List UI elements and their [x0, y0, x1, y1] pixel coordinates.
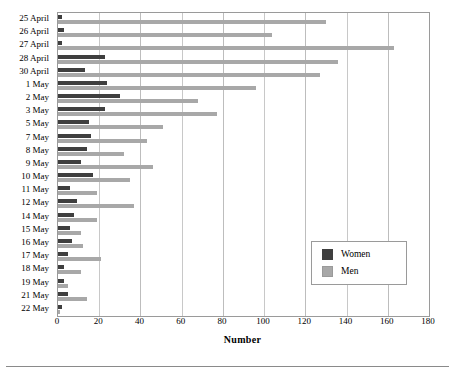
bar-men [58, 270, 81, 274]
chart-legend: Women Men [311, 241, 407, 285]
x-axis-tick-label: 160 [380, 316, 394, 326]
bar-group [58, 197, 429, 210]
legend-label-men: Men [341, 267, 358, 277]
x-axis-tick-label: 60 [176, 316, 185, 326]
x-axis-title: Number [57, 334, 428, 345]
bar-men [58, 73, 320, 77]
bar-women [58, 213, 74, 217]
bar-women [58, 292, 68, 296]
bar-group [58, 53, 429, 66]
bar-women [58, 265, 64, 269]
y-axis-label: 28 April [0, 52, 53, 65]
bar-men [58, 257, 101, 261]
bar-group [58, 79, 429, 92]
bar-men [58, 139, 147, 143]
y-axis-label: 19 May [0, 275, 53, 288]
x-axis-tick-label: 20 [94, 316, 103, 326]
x-axis-tick-label: 100 [256, 316, 270, 326]
bar-group [58, 118, 429, 131]
bar-women [58, 55, 105, 59]
bar-group [58, 13, 429, 26]
bar-men [58, 46, 394, 50]
y-axis-label: 12 May [0, 196, 53, 209]
x-axis-tick-label: 180 [421, 316, 435, 326]
legend-item-women: Women [322, 249, 406, 260]
bar-women [58, 279, 64, 283]
y-axis-label: 26 April [0, 25, 53, 38]
footer-rule [6, 366, 449, 367]
y-axis-label: 10 May [0, 170, 53, 183]
bar-group [58, 290, 429, 303]
bar-group [58, 105, 429, 118]
y-axis-label: 9 May [0, 157, 53, 170]
bar-group [58, 132, 429, 145]
x-axis-tick-label: 0 [55, 316, 60, 326]
bar-women [58, 107, 105, 111]
bar-men [58, 20, 326, 24]
chart-figure: 25 April26 April27 April28 April30 April… [0, 0, 455, 375]
bar-women [58, 68, 85, 72]
y-axis-label: 30 April [0, 65, 53, 78]
bar-group [58, 171, 429, 184]
y-axis-label: 15 May [0, 223, 53, 236]
bar-men [58, 191, 97, 195]
bar-men [58, 99, 198, 103]
bar-women [58, 81, 107, 85]
bar-group [58, 303, 429, 316]
x-axis-tick-label: 80 [217, 316, 226, 326]
legend-swatch-women [322, 249, 333, 260]
bar-women [58, 199, 77, 203]
legend-item-men: Men [322, 266, 406, 277]
bar-men [58, 310, 60, 314]
y-axis-label: 7 May [0, 131, 53, 144]
bar-men [58, 204, 134, 208]
bar-women [58, 252, 68, 256]
bar-women [58, 173, 93, 177]
y-axis-label: 14 May [0, 210, 53, 223]
bar-group [58, 211, 429, 224]
y-axis-label: 1 May [0, 78, 53, 91]
y-axis-label: 21 May [0, 289, 53, 302]
bar-women [58, 305, 62, 309]
bar-men [58, 165, 153, 169]
bar-women [58, 160, 81, 164]
y-axis-label: 17 May [0, 249, 53, 262]
y-axis-label: 5 May [0, 117, 53, 130]
y-axis-label: 11 May [0, 183, 53, 196]
bar-women [58, 147, 87, 151]
bar-men [58, 231, 81, 235]
bar-men [58, 297, 87, 301]
bar-group [58, 145, 429, 158]
bar-men [58, 218, 97, 222]
bar-men [58, 244, 83, 248]
legend-label-women: Women [341, 250, 370, 260]
y-axis-label: 3 May [0, 104, 53, 117]
bar-men [58, 86, 256, 90]
bar-men [58, 284, 68, 288]
bar-men [58, 60, 338, 64]
bar-women [58, 239, 72, 243]
bar-group [58, 26, 429, 39]
bar-group [58, 158, 429, 171]
y-axis-label: 22 May [0, 302, 53, 315]
bar-group [58, 184, 429, 197]
y-axis-label: 27 April [0, 38, 53, 51]
bar-men [58, 125, 163, 129]
bar-women [58, 28, 64, 32]
x-axis-tick-label: 120 [298, 316, 312, 326]
y-axis-label: 18 May [0, 262, 53, 275]
bar-group [58, 39, 429, 52]
y-axis-label: 8 May [0, 144, 53, 157]
bar-group [58, 224, 429, 237]
bar-group [58, 92, 429, 105]
bar-men [58, 152, 124, 156]
x-axis-ticks: 020406080100120140160180 [57, 316, 428, 328]
bar-women [58, 94, 120, 98]
bar-men [58, 112, 217, 116]
bar-men [58, 178, 130, 182]
y-axis-labels: 25 April26 April27 April28 April30 April… [0, 12, 53, 315]
bar-women [58, 186, 70, 190]
bar-women [58, 41, 62, 45]
bar-men [58, 33, 272, 37]
x-axis-tick-label: 140 [339, 316, 353, 326]
